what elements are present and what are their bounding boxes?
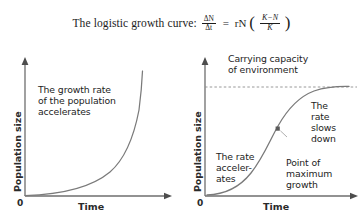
equals-sign: = bbox=[223, 17, 229, 29]
equation-label: The logistic growth curve: bbox=[72, 17, 196, 29]
point-of-maximum-growth-marker bbox=[276, 127, 280, 131]
equation-lhs-denominator: Δt bbox=[202, 24, 216, 32]
annotation-point-of-maximum-growth: Point of maximum growth bbox=[286, 157, 356, 190]
annotation-carrying-capacity: Carrying capacity of environment bbox=[228, 53, 348, 75]
exponential-chart-svg bbox=[0, 48, 180, 222]
x-axis-arrowhead bbox=[164, 193, 172, 199]
annotation-growth-rate: The growth rate of the population accele… bbox=[38, 84, 146, 117]
logistic-growth-chart: Population size Time 0 Carrying capacity… bbox=[181, 48, 361, 222]
x-axis-arrowhead bbox=[350, 193, 358, 199]
rate-term: rN bbox=[235, 17, 247, 29]
max-growth-leader-line bbox=[280, 131, 287, 137]
y-axis-arrowhead bbox=[22, 57, 29, 65]
origin-label: 0 bbox=[197, 198, 203, 208]
exponential-growth-chart: Population size Time 0 The growth rate o… bbox=[0, 48, 180, 222]
annotation-rate-accelerates: The rate acceler- ates bbox=[216, 151, 278, 184]
annotation-rate-slows-down: The rate slows down bbox=[311, 100, 359, 144]
k-minus-n-over-k-fraction: K−N K bbox=[260, 14, 280, 33]
x-axis-label: Time bbox=[263, 201, 289, 212]
x-axis-label: Time bbox=[78, 201, 104, 212]
origin-label: 0 bbox=[17, 198, 23, 208]
y-axis-label: Population size bbox=[192, 112, 203, 193]
delta-n-over-delta-t-fraction: ΔN Δt bbox=[202, 15, 216, 33]
close-paren: ) bbox=[285, 18, 291, 28]
equation-caption: The logistic growth curve: ΔN Δt = rN ( … bbox=[0, 14, 363, 33]
figure-root: The logistic growth curve: ΔN Δt = rN ( … bbox=[0, 0, 363, 222]
equation-rhs-denominator: K bbox=[260, 24, 280, 33]
y-axis-label: Population size bbox=[12, 112, 23, 193]
y-axis-arrowhead bbox=[202, 57, 209, 65]
open-paren: ( bbox=[249, 18, 255, 28]
